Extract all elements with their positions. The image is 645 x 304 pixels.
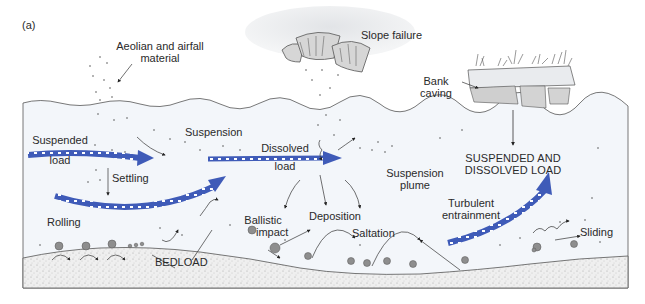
sediment-transport-diagram: (a) Aeolian and airfall material Slope f…: [0, 0, 645, 304]
grass-tufts: [476, 50, 572, 66]
label-bank-caving: Bank caving: [416, 75, 456, 99]
label-dissolved-load: Dissolved load: [255, 142, 315, 172]
label-aeolian: Aeolian and airfall material: [100, 40, 220, 64]
label-settling: Settling: [112, 172, 149, 184]
label-suspended-dissolved-load: SUSPENDED AND DISSOLVED LOAD: [463, 152, 563, 176]
bank-caving-block: [468, 66, 575, 108]
label-rolling: Rolling: [47, 216, 81, 228]
label-suspended-load: Suspended load: [30, 134, 90, 166]
label-sliding: Sliding: [580, 226, 613, 238]
label-slope-failure: Slope failure: [361, 29, 422, 41]
label-ballistic-impact: Ballistic impact: [238, 214, 288, 238]
label-deposition: Deposition: [309, 210, 361, 222]
label-saltation: Saltation: [352, 227, 395, 239]
panel-label: (a): [22, 19, 35, 31]
label-bedload: BEDLOAD: [155, 256, 208, 268]
label-suspension-plume: Suspension plume: [380, 167, 450, 191]
label-suspension: Suspension: [185, 126, 243, 138]
label-turbulent-entrainment: Turbulent entrainment: [436, 197, 506, 221]
